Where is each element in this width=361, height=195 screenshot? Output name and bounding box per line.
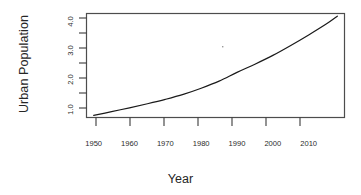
- raster-speck: [222, 46, 223, 47]
- y-tick-label-2-0: 2.0: [66, 69, 75, 91]
- x-tick-label-1960: 1960: [113, 139, 147, 148]
- x-tick-label-2000: 2000: [256, 139, 290, 148]
- x-tick-label-1950: 1950: [77, 139, 111, 148]
- x-tick-label-2010: 2010: [292, 139, 326, 148]
- y-tick-label-3-0: 3.0: [66, 40, 75, 62]
- x-tick-label-1970: 1970: [148, 139, 182, 148]
- x-tick-label-1990: 1990: [220, 139, 254, 148]
- x-tick-label-1980: 1980: [184, 139, 218, 148]
- y-tick-label-1-0: 1.0: [66, 98, 75, 120]
- y-tick-label-4-0: 4.0: [66, 10, 75, 32]
- urban-population-line-chart: [0, 0, 361, 195]
- chart-background: [0, 0, 361, 195]
